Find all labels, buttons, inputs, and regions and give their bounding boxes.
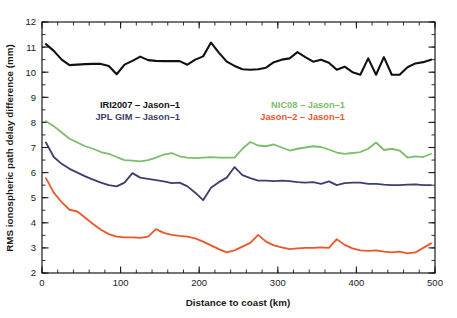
y-tick-label: 8 [31,117,36,128]
y-tick-label: 11 [26,42,36,53]
chart-figure: 010020030040050023456789101112 Distance … [0,0,457,318]
y-tick-label: 6 [31,167,36,178]
chart-canvas: 010020030040050023456789101112 [0,0,457,318]
x-tick-label: 400 [348,277,364,288]
x-tick-label: 200 [191,277,207,288]
y-tick-label: 7 [31,142,36,153]
y-tick-label: 10 [25,67,36,78]
x-tick-label: 0 [39,277,44,288]
y-tick-label: 5 [31,192,36,203]
x-tick-label: 300 [270,277,286,288]
plot-background [42,22,435,273]
y-tick-label: 9 [31,92,36,103]
y-tick-label: 4 [31,217,36,228]
x-tick-label: 500 [427,277,443,288]
y-tick-label: 12 [25,16,36,27]
y-tick-label: 3 [31,242,36,253]
y-tick-label: 2 [31,267,36,278]
x-tick-label: 100 [113,277,129,288]
